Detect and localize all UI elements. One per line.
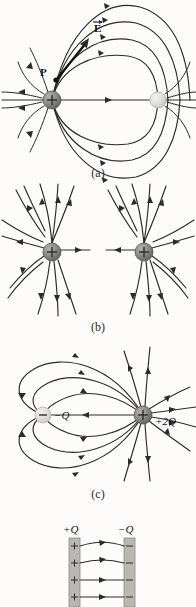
caption-c: (c) (0, 487, 196, 502)
uniform-field-lines (80, 540, 124, 600)
positive-charge (134, 406, 152, 424)
like-charges-field-lines (2, 184, 194, 316)
caption-a: (a) (0, 166, 196, 181)
field-vector-arrow (57, 38, 89, 79)
panel-d-parallel-plates: +Q −Q (0, 520, 196, 607)
panel-a-dipole: E P (0, 0, 196, 165)
positive-charge-left (43, 243, 61, 261)
plate-label-positive: +Q (63, 523, 78, 535)
point-p-label: P (40, 66, 47, 78)
positive-charge-right (135, 243, 153, 261)
charge-label-minus-q: −Q (54, 409, 69, 421)
negative-charge (150, 92, 166, 108)
charge-label-plus-2q: +2Q (155, 415, 176, 427)
field-vector-label: E (94, 22, 101, 34)
panel-c-unequal-charges: −Q +2Q (0, 345, 196, 485)
point-p-marker (53, 77, 58, 82)
panel-b-like-charges (0, 182, 196, 317)
plate-label-negative: −Q (118, 523, 133, 535)
electric-field-lines-figure: E P (a) (0, 0, 196, 607)
caption-b: (b) (0, 320, 196, 335)
positive-charge (43, 91, 61, 109)
negative-charge (35, 407, 51, 423)
